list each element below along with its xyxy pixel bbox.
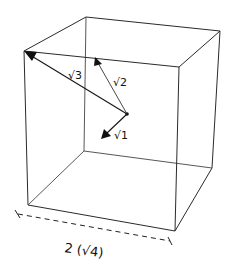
dimension-label: 2 (√4) (64, 240, 105, 260)
cube-front-edges (24, 51, 179, 231)
cube-back-edges (84, 17, 220, 168)
vector-label: √3 (68, 69, 82, 82)
vector-sqrt2: √2 (94, 57, 127, 114)
cube-depth-edges (24, 17, 220, 231)
vector-label: √1 (114, 129, 128, 142)
vector-label: √2 (113, 76, 127, 89)
arrowhead-icon (24, 51, 37, 61)
cube-diagram: √3 √2 √1 2 (√4) (0, 0, 232, 270)
vector-sqrt1: √1 (101, 114, 128, 142)
dimension-line: 2 (√4) (15, 210, 172, 260)
